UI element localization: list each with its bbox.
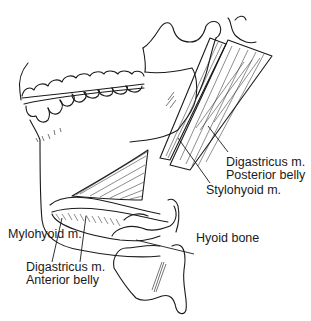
label-digastric-posterior-line2: Posterior belly: [226, 169, 305, 182]
label-digastric-anterior-line2: Anterior belly: [26, 274, 105, 287]
thyroid-cartilage: [114, 245, 187, 314]
posterior-muscles: [160, 38, 272, 170]
label-digastric-posterior-belly: Digastricus m. Posterior belly: [226, 156, 305, 182]
skull-outline: [19, 16, 256, 100]
mylohyoid-muscle: [72, 150, 148, 200]
label-hyoid-bone: Hyoid bone: [196, 232, 259, 245]
label-mylohyoid: Mylohyoid m.: [8, 228, 82, 241]
label-digastric-anterior-belly: Digastricus m. Anterior belly: [26, 261, 105, 287]
label-stylohyoid: Stylohyoid m.: [206, 184, 281, 197]
